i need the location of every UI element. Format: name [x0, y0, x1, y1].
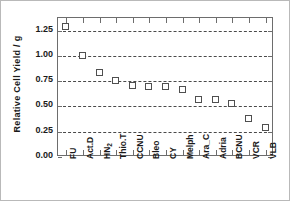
x-tick-label: FU — [69, 148, 78, 159]
y-tick-label: 0.00 — [23, 151, 53, 160]
x-tick-mark-top — [249, 18, 250, 23]
data-point — [195, 96, 202, 103]
data-point — [79, 52, 86, 59]
data-point — [212, 96, 219, 103]
x-tick-mark-bottom — [249, 150, 250, 155]
x-tick-label: Bleo — [152, 141, 161, 159]
gridline — [58, 132, 272, 133]
y-tick-label: 0.75 — [23, 75, 53, 84]
x-tick-mark-top — [183, 18, 184, 23]
data-point — [62, 23, 69, 30]
data-point — [129, 82, 136, 89]
x-tick-mark-bottom — [100, 150, 101, 155]
y-tick-label: 1.00 — [23, 50, 53, 59]
y-tick-mark — [268, 31, 272, 32]
y-tick-mark — [58, 31, 62, 32]
x-tick-label: CY — [169, 147, 178, 159]
data-point — [179, 86, 186, 93]
y-tick-mark — [58, 157, 62, 158]
x-tick-label: Act.D — [86, 137, 95, 159]
data-point — [112, 77, 119, 84]
x-tick-mark-bottom — [166, 150, 167, 155]
gridline — [58, 56, 272, 57]
y-tick-mark — [268, 56, 272, 57]
x-tick-label: Thio.T — [119, 134, 128, 160]
y-tick-mark — [58, 106, 62, 107]
chart-figure: Relative Cell Yield / g 0.000.250.500.75… — [0, 0, 290, 201]
y-tick-label: 0.25 — [23, 126, 53, 135]
x-tick-mark-bottom — [216, 150, 217, 155]
x-tick-mark-bottom — [183, 150, 184, 155]
y-tick-mark — [268, 132, 272, 133]
x-tick-mark-top — [149, 18, 150, 23]
y-tick-mark — [58, 132, 62, 133]
x-tick-mark-top — [232, 18, 233, 23]
data-point — [96, 69, 103, 76]
x-tick-label: Melph — [186, 134, 195, 159]
data-point — [162, 83, 169, 90]
y-tick-mark — [58, 56, 62, 57]
data-point — [262, 124, 269, 131]
y-tick-label: 1.25 — [23, 25, 53, 34]
x-tick-mark-bottom — [83, 150, 84, 155]
data-point — [145, 83, 152, 90]
x-tick-label: Adria — [219, 137, 228, 159]
x-tick-label: HN2 — [103, 143, 112, 159]
gridline — [58, 106, 272, 107]
x-tick-label: Ara_C — [202, 134, 211, 159]
x-tick-mark-top — [216, 18, 217, 23]
x-tick-mark-top — [100, 18, 101, 23]
data-point — [245, 115, 252, 122]
x-tick-label: BCNU — [235, 134, 244, 159]
gridline — [58, 81, 272, 82]
x-tick-mark-bottom — [116, 150, 117, 155]
x-tick-mark-top — [199, 18, 200, 23]
data-point — [228, 100, 235, 107]
y-tick-mark — [268, 81, 272, 82]
x-tick-label: CCNU — [136, 134, 145, 159]
x-tick-mark-top — [133, 18, 134, 23]
x-tick-label: VLB — [269, 142, 278, 159]
x-tick-label: VCR — [252, 141, 261, 159]
x-tick-mark-top — [83, 18, 84, 23]
x-tick-mark-top — [266, 18, 267, 23]
x-tick-mark-bottom — [266, 150, 267, 155]
x-tick-mark-top — [116, 18, 117, 23]
gridline — [58, 31, 272, 32]
x-tick-mark-top — [166, 18, 167, 23]
y-tick-mark — [58, 81, 62, 82]
y-tick-label: 0.50 — [23, 100, 53, 109]
x-tick-mark-bottom — [133, 150, 134, 155]
y-tick-mark — [268, 106, 272, 107]
